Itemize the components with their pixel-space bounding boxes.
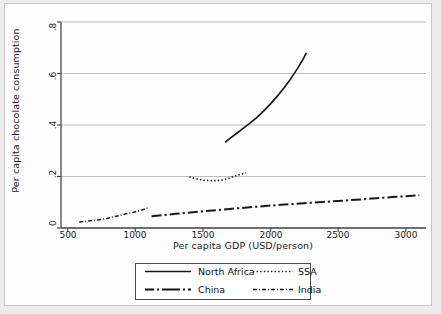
series-line — [79, 208, 147, 222]
x-tick-label: 1000 — [115, 230, 155, 240]
x-tick-label: 3000 — [386, 230, 426, 240]
y-axis-title: Per capita chocolate consumption — [10, 3, 21, 218]
chart-figure: Per capita chocolate consumption 0 .2 .4… — [0, 0, 441, 314]
chart-legend: North Africa SSA China India — [135, 263, 311, 300]
legend-label-ssa: SSA — [298, 264, 317, 279]
legend-label-china: China — [198, 282, 225, 297]
x-tick-label: 2000 — [251, 230, 291, 240]
series-line — [225, 53, 306, 142]
legend-key-india — [252, 282, 294, 297]
y-tick-label: .6 — [48, 67, 58, 85]
y-tick-label: .4 — [48, 116, 58, 134]
series-line — [152, 195, 420, 216]
legend-label-north-africa: North Africa — [198, 264, 255, 279]
y-tick-label: .8 — [48, 18, 58, 36]
x-tick-label: 2500 — [318, 230, 358, 240]
y-tick-label: .2 — [48, 165, 58, 183]
data-series-group — [79, 53, 419, 222]
legend-key-north-africa — [144, 264, 192, 279]
legend-label-india: India — [298, 282, 321, 297]
x-axis-title: Per capita GDP (USD/person) — [60, 240, 426, 251]
legend-key-china — [144, 282, 192, 297]
page-background: Per capita chocolate consumption 0 .2 .4… — [0, 0, 441, 314]
legend-key-ssa — [252, 264, 294, 279]
gridlines — [61, 22, 426, 228]
x-tick-label: 500 — [48, 230, 88, 240]
x-tick-label: 1500 — [183, 230, 223, 240]
